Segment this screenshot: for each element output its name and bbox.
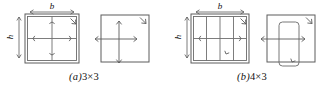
panel-a-drawing: b h xyxy=(0,0,168,72)
corner-hook-icon xyxy=(241,19,247,25)
dimension-arrow-h xyxy=(185,17,189,58)
dimension-label-h: h xyxy=(173,34,183,39)
dimension-label-b: b xyxy=(50,1,55,11)
figure-root: b h xyxy=(0,0,336,93)
inner-tie-rectangle xyxy=(279,22,299,66)
plan-view-3x3 xyxy=(25,14,79,63)
caption-letter-a: (a) xyxy=(69,71,82,82)
caption-text-b: 4×3 xyxy=(250,71,267,82)
caption-letter-b: (b) xyxy=(237,71,250,82)
corner-hook-icon xyxy=(140,18,146,24)
caption-panel-a: (a)3×3 xyxy=(0,70,168,84)
section-view-4x3 xyxy=(261,15,315,66)
plan-view-4x3 xyxy=(191,14,249,63)
figure-panel-b: b h xyxy=(168,0,336,93)
caption-panel-b: (b)4×3 xyxy=(168,70,336,84)
figure-panel-a: b h xyxy=(0,0,168,93)
dimension-label-b: b xyxy=(218,1,223,11)
corner-hook-icon xyxy=(306,18,312,24)
caption-text-a: 3×3 xyxy=(82,71,99,82)
dimension-label-h: h xyxy=(5,34,15,39)
corner-hook-icon xyxy=(71,19,77,25)
panel-b-drawing: b h xyxy=(168,0,336,72)
dimension-arrow-h xyxy=(17,17,21,58)
section-view-3x3 xyxy=(95,15,149,63)
